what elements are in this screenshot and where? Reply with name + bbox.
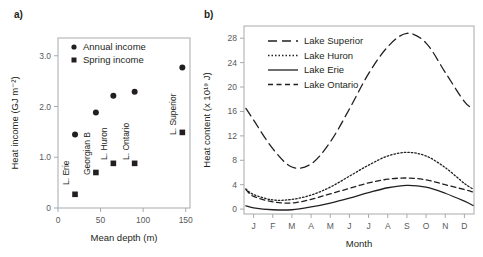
data-point-annual bbox=[179, 64, 185, 70]
curve-lake-huron bbox=[246, 152, 473, 200]
y-tick-label: 4 bbox=[232, 180, 237, 190]
panel-b-svg: b) 0481216202428JFMAMJJASONDMonthHeat co… bbox=[196, 0, 483, 257]
curve-lake-erie bbox=[246, 185, 473, 210]
data-point-annual bbox=[110, 93, 116, 99]
data-point-spring bbox=[72, 191, 78, 197]
legend-label: Annual income bbox=[83, 41, 146, 52]
x-tick-label: J bbox=[251, 221, 255, 231]
y-tick-label: 12 bbox=[228, 131, 238, 141]
panel-b-y-axis-title: Heat content (x 10¹⁹ J) bbox=[201, 72, 212, 167]
panel-b-heat-content: b) 0481216202428JFMAMJJASONDMonthHeat co… bbox=[196, 0, 483, 257]
legend-marker-square bbox=[72, 58, 77, 63]
legend-label: Lake Ontario bbox=[304, 79, 358, 90]
x-tick-label: N bbox=[442, 221, 448, 231]
data-point-spring bbox=[180, 130, 186, 136]
data-point-spring bbox=[132, 161, 138, 167]
legend-label: Spring income bbox=[83, 54, 144, 65]
data-point-annual bbox=[72, 131, 78, 137]
y-tick-label: 28 bbox=[228, 33, 238, 43]
x-tick-label: 100 bbox=[136, 215, 150, 225]
y-tick-label: 0 bbox=[46, 203, 51, 213]
point-label: L. Superior bbox=[168, 93, 178, 135]
x-tick-label: 50 bbox=[96, 215, 106, 225]
y-tick-label: 2.0 bbox=[39, 102, 51, 112]
point-label: L. Huron bbox=[99, 127, 109, 160]
panel-b-label: b) bbox=[204, 9, 213, 20]
point-label: L. Erie bbox=[61, 160, 71, 185]
y-tick-label: 0 bbox=[232, 204, 237, 214]
y-tick-label: 8 bbox=[232, 155, 237, 165]
legend-label: Lake Erie bbox=[304, 64, 344, 75]
panel-a-y-axis-title: Heat income (GJ m⁻²) bbox=[9, 76, 20, 169]
x-tick-label: 0 bbox=[56, 215, 61, 225]
panel-a-svg: a) 01.02.03.0050100150Mean depth (m)Heat… bbox=[0, 0, 200, 257]
legend-label: Lake Huron bbox=[304, 50, 353, 61]
x-tick-label: 150 bbox=[179, 215, 193, 225]
x-tick-label: F bbox=[270, 221, 275, 231]
data-point-spring bbox=[93, 170, 99, 176]
y-tick-label: 1.0 bbox=[39, 152, 51, 162]
x-tick-label: M bbox=[327, 221, 334, 231]
panel-b-x-axis-title: Month bbox=[346, 238, 372, 249]
legend-label: Lake Superior bbox=[304, 35, 363, 46]
x-tick-label: D bbox=[461, 221, 467, 231]
panel-a-label: a) bbox=[14, 9, 23, 20]
legend-marker-circle bbox=[71, 44, 76, 49]
x-tick-label: A bbox=[385, 221, 391, 231]
data-point-annual bbox=[93, 110, 99, 116]
x-tick-label: S bbox=[404, 221, 410, 231]
x-tick-label: J bbox=[347, 221, 351, 231]
y-tick-label: 20 bbox=[228, 82, 238, 92]
panel-a-x-axis-title: Mean depth (m) bbox=[90, 232, 157, 243]
curve-lake-superior bbox=[246, 33, 473, 168]
y-tick-label: 24 bbox=[228, 58, 238, 68]
point-label: L. Ontario bbox=[121, 122, 131, 160]
x-tick-label: J bbox=[366, 221, 370, 231]
data-point-annual bbox=[132, 89, 138, 95]
x-tick-label: M bbox=[288, 221, 295, 231]
point-label: Georgian B bbox=[82, 132, 92, 175]
panel-a-heat-income: a) 01.02.03.0050100150Mean depth (m)Heat… bbox=[0, 0, 200, 257]
figure-container: a) 01.02.03.0050100150Mean depth (m)Heat… bbox=[0, 0, 483, 257]
data-point-spring bbox=[111, 161, 117, 167]
y-tick-label: 3.0 bbox=[39, 51, 51, 61]
y-tick-label: 16 bbox=[228, 106, 238, 116]
x-tick-label: O bbox=[423, 221, 430, 231]
x-tick-label: A bbox=[308, 221, 314, 231]
